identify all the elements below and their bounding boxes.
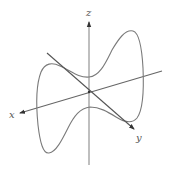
z-axis-label: z <box>85 7 92 18</box>
y-axis-label: y <box>135 132 142 143</box>
y-axis <box>47 53 134 129</box>
origin-point <box>88 91 90 93</box>
diagram-canvas: z x y <box>0 0 169 173</box>
x-axis-label: x <box>9 109 15 120</box>
